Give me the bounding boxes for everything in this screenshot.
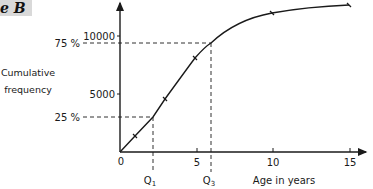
- x-axis-title: Age in years: [253, 175, 315, 186]
- percent-label-75: 75 %: [55, 38, 80, 49]
- q1-label: Q1: [144, 175, 156, 188]
- cumulative-frequency-curve: [120, 5, 349, 152]
- origin-label: 0: [118, 156, 124, 167]
- data-point-markers: [133, 3, 351, 138]
- y-tick-label-10000: 10000: [83, 31, 115, 42]
- percent-label-25: 25 %: [55, 112, 80, 123]
- x-tick-label-10: 10: [267, 157, 280, 168]
- cumulative-frequency-chart: 5 10 15 5000 10000 0 Cumulative frequenc…: [0, 0, 373, 189]
- y-axis-title-line-2: frequency: [4, 84, 52, 95]
- x-tick-label-5: 5: [194, 157, 200, 168]
- y-axis-title-line-1: Cumulative: [1, 67, 55, 78]
- y-tick-label-5000: 5000: [90, 89, 115, 100]
- q3-label: Q3: [203, 175, 215, 188]
- x-tick-label-15: 15: [344, 157, 357, 168]
